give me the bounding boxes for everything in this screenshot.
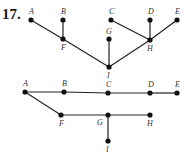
vertex-label-D: D — [147, 80, 154, 89]
vertex-label-G: G — [106, 27, 112, 36]
vertex-C — [108, 17, 113, 22]
vertex-E — [174, 90, 179, 95]
vertex-label-B: B — [62, 79, 67, 88]
vertex-G — [106, 36, 111, 41]
vertex-I — [106, 64, 111, 69]
graph-diagram: ABCDEFGHI ABCDEFGHI — [0, 0, 185, 153]
vertex-label-E: E — [174, 80, 180, 89]
vertex-label-B: B — [61, 7, 66, 16]
vertex-H — [147, 112, 152, 117]
vertex-D — [147, 17, 152, 22]
vertex-label-D: D — [147, 7, 154, 16]
vertex-label-A: A — [22, 79, 28, 88]
vertex-label-C: C — [106, 80, 112, 89]
vertex-label-C: C — [109, 7, 115, 16]
tree-graph-bottom: ABCDEFGHI — [22, 79, 180, 153]
vertex-E — [174, 17, 179, 22]
vertex-label-F: F — [60, 43, 66, 52]
edge-C-H — [111, 20, 150, 40]
edge-B-C — [64, 92, 108, 93]
edge-I-H — [109, 40, 150, 67]
vertex-label-E: E — [174, 7, 180, 16]
vertex-G — [105, 112, 110, 117]
edge-F-I — [63, 39, 109, 67]
vertex-label-I: I — [106, 71, 110, 80]
vertex-F — [60, 36, 65, 41]
vertex-A — [22, 89, 27, 94]
vertex-B — [61, 89, 66, 94]
vertex-D — [147, 90, 152, 95]
vertex-label-F: F — [58, 119, 64, 128]
tree-graph-top: ABCDEFGHI — [28, 7, 180, 80]
vertex-label-G: G — [97, 118, 103, 127]
vertex-label-H: H — [146, 119, 154, 128]
vertex-label-A: A — [28, 7, 34, 16]
vertex-H — [147, 37, 152, 42]
vertex-B — [60, 17, 65, 22]
vertex-I — [105, 138, 110, 143]
edge-A-F — [31, 20, 63, 39]
vertex-label-H: H — [146, 44, 154, 53]
vertex-C — [105, 90, 110, 95]
vertex-F — [58, 112, 63, 117]
vertex-A — [28, 17, 33, 22]
edge-E-H — [150, 20, 177, 40]
edge-A-F — [25, 92, 61, 115]
vertex-label-I: I — [105, 145, 109, 153]
